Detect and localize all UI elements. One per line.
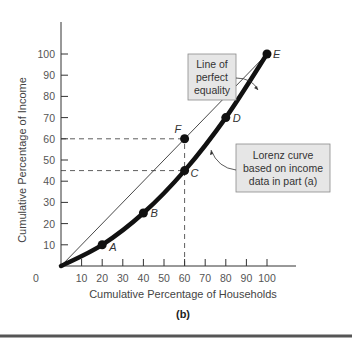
y-tick-label: 50 — [43, 154, 55, 166]
equality-callout-line-2: perfect — [196, 71, 228, 83]
x-tick-label: 10 — [76, 272, 88, 284]
x-tick-label: 40 — [138, 272, 150, 284]
y-tick-label: 40 — [43, 175, 55, 187]
equality-callout: Line of perfect equality — [188, 54, 258, 100]
x-tick-label: 90 — [241, 272, 253, 284]
y-axis-title: Cumulative Percentage of Income — [16, 77, 28, 243]
y-tick-label: 100 — [37, 48, 55, 60]
point-label-a: A — [108, 241, 116, 253]
x-tick-label: 60 — [179, 272, 191, 284]
lorenz-callout-arrow — [211, 150, 236, 170]
lorenz-curve-chart: 1020304050607080901001020304050607080901… — [0, 0, 352, 341]
x-axis-title: Cumulative Percentage of Households — [89, 288, 277, 300]
y-tick-label: 80 — [43, 90, 55, 102]
lorenz-callout-line-1: Lorenz curve — [253, 149, 314, 161]
panel-label: (b) — [176, 308, 190, 320]
x-tick-label: 100 — [258, 272, 276, 284]
x-tick-label: 30 — [117, 272, 129, 284]
y-tick-label: 10 — [43, 239, 55, 251]
point-b — [139, 209, 148, 218]
equality-callout-line-1: Line of — [196, 58, 228, 70]
point-c — [180, 166, 189, 175]
point-a — [98, 240, 107, 249]
x-tick-label: 20 — [96, 272, 108, 284]
point-label-d: D — [233, 112, 241, 124]
x-tick-label: 80 — [220, 272, 232, 284]
x-tick-label: 50 — [158, 272, 170, 284]
y-tick-label: 90 — [43, 69, 55, 81]
point-f — [180, 134, 189, 143]
origin-label: 0 — [33, 272, 39, 284]
point-label-e: E — [273, 48, 281, 60]
point-label-f: F — [175, 123, 183, 135]
callouts: Line of perfect equality Lorenz curve ba… — [188, 54, 330, 192]
equality-callout-line-3: equality — [194, 84, 231, 96]
y-tick-label: 60 — [43, 133, 55, 145]
point-e — [263, 50, 272, 59]
point-label-c: C — [191, 167, 199, 179]
x-tick-label: 70 — [199, 272, 211, 284]
point-d — [221, 113, 230, 122]
y-tick-label: 30 — [43, 196, 55, 208]
lorenz-callout: Lorenz curve based on income data in par… — [210, 144, 330, 192]
lorenz-callout-line-2: based on income — [243, 162, 323, 174]
point-label-b: B — [150, 207, 157, 219]
y-tick-label: 70 — [43, 112, 55, 124]
lorenz-callout-line-3: data in part (a) — [249, 175, 317, 187]
y-tick-label: 20 — [43, 218, 55, 230]
